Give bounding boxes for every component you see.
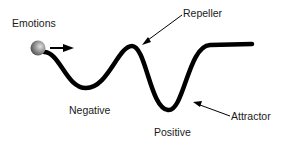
motion-arrow-icon	[50, 44, 74, 52]
landscape-curve	[44, 44, 252, 110]
attractor-pointer-arrow	[193, 101, 230, 116]
label-emotions: Emotions	[12, 17, 56, 29]
label-repeller: Repeller	[183, 7, 222, 19]
label-positive: Positive	[154, 126, 191, 138]
emotion-ball	[31, 41, 46, 56]
label-negative: Negative	[69, 104, 110, 116]
repeller-pointer-arrow	[142, 15, 182, 45]
label-attractor: Attractor	[231, 110, 271, 122]
